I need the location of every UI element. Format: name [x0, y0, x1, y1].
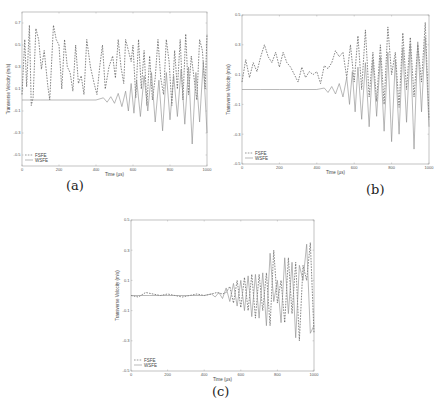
y-tick-label: 0.5: [235, 12, 241, 17]
chart-c: 020040060080010000.50.30.1-0.1-0.3-0.5Ti…: [115, 217, 319, 382]
y-tick-label: 0.3: [235, 42, 241, 47]
y-tick-label: -0.1: [123, 308, 131, 313]
x-tick-label: 400: [201, 372, 208, 377]
x-tick-label: 200: [56, 167, 63, 172]
y-tick-label: 0.3: [124, 248, 130, 253]
x-tick-label: 400: [313, 165, 320, 170]
x-tick-label: 800: [274, 372, 281, 377]
y-tick-label: 0.5: [15, 42, 21, 47]
x-tick-label: 800: [388, 165, 395, 170]
y-tick-label: -0.1: [234, 102, 242, 107]
chart-a: 020040060080010000.70.50.30.1-0.1-0.3-0.…: [6, 12, 212, 177]
x-tick-label: 200: [276, 165, 283, 170]
x-tick-label: 600: [351, 165, 358, 170]
caption-b: (b): [366, 182, 384, 197]
x-tick-label: 1000: [310, 372, 320, 377]
y-tick-label: -0.5: [234, 161, 242, 166]
x-tick-label: 400: [93, 167, 100, 172]
y-tick-label: 0.1: [235, 72, 241, 77]
y-tick-label: -0.5: [123, 368, 131, 373]
legend-label-wsfe: WSFE: [255, 156, 268, 161]
y-tick-label: 0.7: [15, 20, 21, 25]
x-tick-label: 600: [130, 167, 137, 172]
y-axis-label: Transverse Velocity (m/s): [6, 63, 11, 114]
x-tick-label: 0: [130, 372, 133, 377]
x-tick-label: 0: [241, 165, 244, 170]
y-tick-label: -0.3: [123, 338, 131, 343]
y-tick-label: -0.3: [14, 130, 22, 135]
y-tick-label: -0.5: [14, 152, 22, 157]
chart-b: 020040060080010000.50.30.1-0.1-0.3-0.5Ti…: [226, 12, 434, 175]
series-wsfe: [22, 62, 207, 145]
legend-label-wsfe: WSFE: [35, 158, 48, 163]
x-tick-label: 800: [167, 167, 174, 172]
y-tick-label: 0.1: [124, 278, 130, 283]
x-tick-label: 1000: [203, 167, 213, 172]
x-axis-label: Time (µs): [326, 170, 345, 175]
caption-c: (c): [212, 384, 229, 399]
series-fsfe: [131, 243, 314, 341]
plot-frame: [22, 12, 207, 166]
x-tick-label: 1000: [425, 165, 434, 170]
y-axis-label: Transverse Velocity (m/s): [226, 64, 231, 115]
y-tick-label: -0.3: [234, 132, 242, 137]
legend-label-wsfe: WSFE: [144, 363, 157, 368]
x-axis-label: Time (µs): [105, 172, 124, 177]
x-axis-label: Time (µs): [213, 377, 232, 382]
y-tick-label: 0.5: [124, 217, 130, 222]
series-fsfe: [242, 22, 429, 119]
y-tick-label: 0.1: [15, 86, 21, 91]
caption-a: (a): [66, 178, 84, 193]
x-tick-label: 200: [164, 372, 171, 377]
y-axis-label: Transverse Velocity (m/s): [115, 270, 120, 321]
y-tick-label: 0.3: [15, 64, 21, 69]
series-wsfe: [242, 37, 429, 149]
x-tick-label: 0: [21, 167, 24, 172]
y-tick-label: -0.1: [14, 108, 22, 113]
figure-canvas: 020040060080010000.70.50.30.1-0.1-0.3-0.…: [0, 0, 434, 409]
x-tick-label: 600: [237, 372, 244, 377]
